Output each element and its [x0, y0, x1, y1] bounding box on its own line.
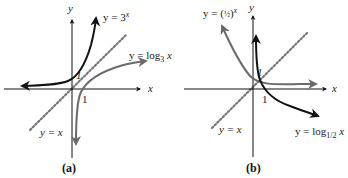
label-exp-half-x: y = (½)x	[203, 6, 238, 20]
tick-x-1-b: 1	[262, 93, 268, 105]
axis-x-label-a: x	[147, 82, 153, 94]
label-log-half-x: y = log1/2 x	[295, 125, 344, 140]
curve-exp-half-x	[222, 26, 316, 84]
panel-b: 1 1 x y y = (½)x y = log1/2 x y = x (b)	[184, 1, 344, 175]
label-identity-b: y = x	[218, 123, 242, 135]
axis-y-label-a: y	[67, 2, 73, 14]
caption-a: (a)	[62, 161, 76, 175]
axis-x-label-b: x	[331, 82, 337, 94]
label-identity-a: y = x	[39, 126, 63, 138]
figure-canvas: 1 1 x y y = 3x y = log3 x y = x (a) 1 1 …	[0, 0, 348, 178]
identity-line-a	[30, 34, 127, 130]
label-exp-3x: y = 3x	[103, 10, 130, 23]
tick-y-1-a: 1	[76, 69, 82, 81]
caption-b: (b)	[246, 161, 261, 175]
tick-x-1-a: 1	[82, 93, 88, 105]
axis-y-label-b: y	[248, 1, 254, 13]
panel-a: 1 1 x y y = 3x y = log3 x y = x (a)	[4, 2, 172, 175]
tick-y-1-b: 1	[257, 66, 263, 78]
